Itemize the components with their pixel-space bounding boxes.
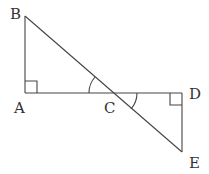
label-d: D — [189, 85, 201, 103]
label-a: A — [13, 99, 25, 117]
label-b: B — [10, 5, 21, 23]
segment-be — [25, 16, 182, 152]
geometry-diagram: B A C D E — [0, 0, 209, 174]
angle-arc-acb — [89, 77, 95, 93]
label-c: C — [104, 99, 115, 117]
right-angle-mark-a — [25, 81, 37, 93]
angle-arc-dce — [131, 93, 137, 109]
right-angle-mark-d — [170, 93, 182, 105]
label-e: E — [189, 154, 200, 172]
